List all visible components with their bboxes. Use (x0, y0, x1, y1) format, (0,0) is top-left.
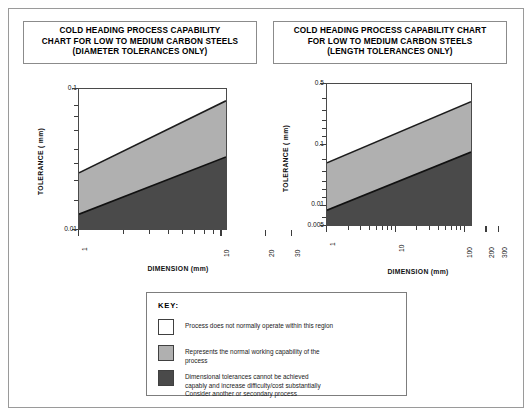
x-tick-minor (360, 226, 361, 230)
key-text-line: process (185, 357, 320, 366)
x-tick-label: 100 (466, 247, 473, 258)
plot-area-length: TOLERANCE ( mm) 0.5 0.1 0.01 0.005 (318, 72, 476, 228)
key-text-line: Represents the normal working capability… (185, 348, 320, 357)
x-axis-title-length: DIMENSION (mm) (328, 268, 508, 275)
key-swatch-white-icon (158, 319, 174, 335)
x-tick-minor (438, 226, 439, 230)
key-item-white-region: Process does not normally operate within… (158, 319, 333, 335)
x-tick-label: 10 (223, 250, 230, 257)
chart-title-line: COLD HEADING PROCESS CAPABILITY (26, 26, 254, 37)
x-tick-minor (123, 230, 124, 234)
figure-outer-frame: COLD HEADING PROCESS CAPABILITY CHART FO… (8, 8, 524, 408)
plot-area-diameter: TOLERANCE ( mm) 0.1 0.01 (70, 77, 230, 232)
x-tick-minor (445, 226, 446, 230)
x-tick-minor (149, 230, 150, 234)
key-item-text: Process does not normally operate within… (185, 319, 333, 331)
band-graphic-diameter (79, 89, 226, 229)
x-tick-minor (382, 226, 383, 230)
x-tick-minor (348, 226, 349, 230)
chart-title-line: CHART FOR LOW TO MEDIUM CARBON STEELS (26, 37, 254, 48)
x-tick-minor (369, 226, 370, 230)
x-tick-label: 1 (81, 247, 88, 251)
x-tick-major (395, 226, 396, 232)
chart-title-line: (DIAMETER TOLERANCES ONLY) (26, 47, 254, 58)
x-tick-minor (416, 226, 417, 230)
x-tick-minor (194, 230, 195, 234)
x-tick-major (220, 230, 221, 236)
key-legend-box: KEY: Process does not normally operate w… (146, 292, 407, 396)
x-tick-major (464, 226, 465, 232)
x-tick-minor (213, 230, 214, 234)
key-swatch-gray-icon (158, 345, 174, 361)
chart-title-line: FOR LOW TO MEDIUM CARBON STEELS (276, 37, 504, 48)
x-tick-major (78, 230, 79, 236)
chart-title-line: (LENGTH TOLERANCES ONLY) (276, 47, 504, 58)
x-tick-label: 300 (501, 247, 508, 258)
x-tick-minor (460, 226, 461, 230)
key-text-line: Consider another or secondary process (185, 390, 321, 399)
key-item-text: Represents the normal working capability… (185, 345, 320, 365)
y-axis-title-diameter: TOLERANCE ( mm) (37, 128, 44, 195)
x-tick-minor (451, 226, 452, 230)
chart-title-diameter: COLD HEADING PROCESS CAPABILITY CHART FO… (23, 21, 257, 64)
key-text-line: Dimensional tolerances cannot be achieve… (185, 373, 321, 382)
x-tick-label: 200 (488, 247, 495, 258)
x-tick-major (326, 226, 327, 232)
plot-box-length (326, 83, 472, 226)
x-tick-minor (168, 230, 169, 234)
chart-title-line: COLD HEADING PROCESS CAPABILITY CHART (276, 26, 504, 37)
x-tick-major (498, 226, 499, 232)
x-tick-label: 10 (398, 245, 405, 252)
x-tick-minor (456, 226, 457, 230)
x-axis-title-diameter: DIMENSION (mm) (88, 265, 268, 272)
key-text-line: capably and increase difficulty/cost sub… (185, 382, 321, 391)
x-tick-minor (391, 226, 392, 230)
key-item-text: Dimensional tolerances cannot be achieve… (185, 370, 321, 399)
x-tick-minor (376, 226, 377, 230)
chart-panel-diameter: COLD HEADING PROCESS CAPABILITY CHART FO… (15, 15, 265, 273)
band-graphic-length (327, 84, 471, 225)
x-tick-minor (387, 226, 388, 230)
key-title: KEY: (158, 301, 179, 310)
x-tick-minor (182, 230, 183, 234)
x-tick-label: 1 (329, 242, 336, 246)
x-tick-major (485, 226, 486, 232)
x-tick-minor (429, 226, 430, 230)
plot-box-diameter (78, 88, 227, 230)
chart-title-length: COLD HEADING PROCESS CAPABILITY CHART FO… (273, 21, 507, 64)
x-tick-minor (204, 230, 205, 234)
key-item-gray-region: Represents the normal working capability… (158, 345, 320, 365)
key-text-line: Process does not normally operate within… (185, 322, 333, 331)
y-axis-title-length: TOLERANCE ( mm) (282, 125, 289, 192)
key-item-dark-region: Dimensional tolerances cannot be achieve… (158, 370, 321, 399)
key-swatch-dark-icon (158, 370, 174, 386)
